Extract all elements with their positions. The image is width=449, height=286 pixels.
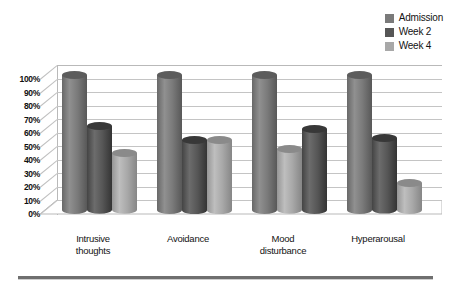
bar-cylinder (157, 71, 182, 214)
legend-swatch-week-4 (385, 42, 394, 51)
y-axis: 100%90%80%70%60%50%40%30%20%10%0% (6, 60, 40, 220)
bar-cylinder (347, 71, 372, 214)
bar-body (252, 71, 277, 214)
bar-body (302, 125, 327, 214)
y-tick-label: 70% (24, 116, 40, 125)
legend-label-week-4: Week 4 (399, 41, 432, 51)
y-tick-label: 20% (24, 183, 40, 192)
legend-item-admission: Admission (385, 12, 443, 24)
bar-body (62, 71, 87, 214)
bar-cylinder (62, 71, 87, 214)
legend-swatch-admission (385, 14, 394, 23)
x-axis-label: Mood disturbance (239, 233, 327, 256)
chart-legend: Admission Week 2 Week 4 (385, 12, 443, 52)
bar-cylinder (397, 179, 422, 214)
bar-body (87, 122, 112, 214)
x-axis-labels: Intrusive thoughtsAvoidanceMood disturba… (40, 233, 442, 269)
bar-cylinder (182, 136, 207, 214)
legend-label-admission: Admission (399, 13, 443, 23)
legend-label-week-2: Week 2 (399, 27, 432, 37)
legend-item-week-2: Week 2 (385, 26, 432, 38)
legend-item-week-4: Week 4 (385, 40, 432, 52)
y-tick-label: 60% (24, 129, 40, 138)
bar-cylinder (277, 145, 302, 214)
x-axis-label: Intrusive thoughts (49, 233, 137, 256)
bar-cylinder (302, 125, 327, 214)
y-tick-label: 80% (24, 102, 40, 111)
bar-body (347, 71, 372, 214)
bar-cylinder (87, 122, 112, 214)
bar-chart: Admission Week 2 Week 4 100%90%80%70%60%… (0, 0, 449, 286)
bar-cylinder (112, 149, 137, 214)
x-axis-label: Hyperarousal (334, 233, 422, 245)
bar-body (112, 149, 137, 214)
bar-body (207, 136, 232, 214)
legend-swatch-week-2 (385, 28, 394, 37)
y-tick-label: 50% (24, 143, 40, 152)
footer-rule-shadow (18, 279, 433, 280)
bar-cylinder (207, 136, 232, 214)
y-tick-label: 30% (24, 170, 40, 179)
bar-body (372, 134, 397, 214)
bars-layer (40, 65, 442, 230)
bar-cylinder (372, 134, 397, 214)
bar-body (157, 71, 182, 214)
y-tick-label: 40% (24, 156, 40, 165)
y-tick-label: 0% (28, 210, 40, 219)
y-tick-label: 90% (24, 89, 40, 98)
x-axis-label: Avoidance (144, 233, 232, 245)
bar-body (277, 145, 302, 214)
bar-body (397, 179, 422, 214)
y-tick-label: 10% (24, 197, 40, 206)
bar-body (182, 136, 207, 214)
y-tick-label: 100% (19, 75, 40, 84)
bar-cylinder (252, 71, 277, 214)
